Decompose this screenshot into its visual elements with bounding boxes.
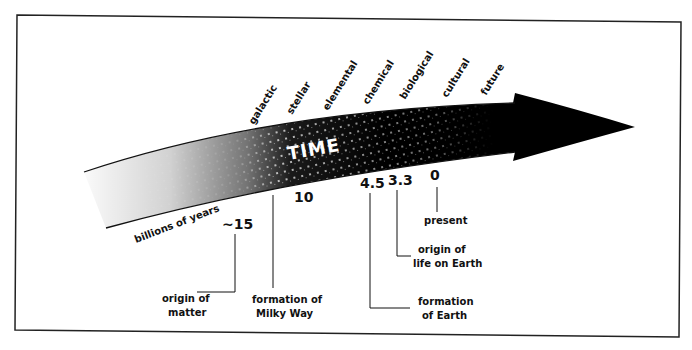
marker-formation-of-milky-way: 10 formation of Milky Way xyxy=(252,189,323,319)
arrowhead xyxy=(513,93,635,161)
marker-caption-line2: Milky Way xyxy=(256,308,314,319)
era-label-stellar: stellar xyxy=(284,80,312,116)
era-label-galactic: galactic xyxy=(246,83,279,126)
marker-value: 3.3 xyxy=(388,172,413,188)
marker-value: ~15 xyxy=(222,216,253,232)
marker-present: 0 present xyxy=(424,167,468,226)
era-label-cultural: cultural xyxy=(439,56,471,99)
leader-line xyxy=(397,190,411,256)
cosmic-time-arrow-diagram: TIME galactic stellar elemental chemical… xyxy=(0,0,692,350)
era-label-biological: biological xyxy=(397,49,435,101)
marker-caption-line2: matter xyxy=(168,307,207,318)
time-arrow xyxy=(84,93,635,228)
era-label-elemental: elemental xyxy=(320,59,359,113)
marker-value: 4.5 xyxy=(360,175,385,191)
era-label-chemical: chemical xyxy=(360,58,396,106)
marker-caption-line1: present xyxy=(424,215,468,226)
leader-line xyxy=(197,234,235,292)
marker-caption-line2: of Earth xyxy=(422,310,467,321)
era-label-future: future xyxy=(478,61,506,97)
marker-caption-line1: formation xyxy=(418,296,474,307)
marker-origin-of-matter: ~15 origin of matter xyxy=(162,216,253,318)
leader-line xyxy=(370,193,410,308)
marker-value: 10 xyxy=(294,189,314,205)
marker-caption-line2: life on Earth xyxy=(413,258,482,269)
marker-value: 0 xyxy=(430,167,440,183)
marker-caption-line1: origin of xyxy=(418,244,466,255)
marker-caption-line1: origin of xyxy=(162,293,210,304)
marker-caption-line1: formation of xyxy=(252,294,323,305)
